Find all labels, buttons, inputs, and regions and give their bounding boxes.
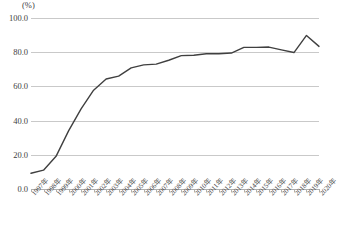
y-axis: 0.020.040.060.080.0100.0	[0, 0, 31, 233]
plot-area	[31, 18, 319, 189]
series-polyline	[31, 35, 319, 173]
series-line	[31, 18, 319, 189]
y-tick-label: 20.0	[13, 150, 28, 159]
y-tick-label: 80.0	[13, 48, 28, 57]
y-tick-label: 40.0	[13, 116, 28, 125]
x-axis: 1997年1998年1999年2000年2001年2002年2003年2004年…	[31, 192, 319, 233]
y-tick-label: 0.0	[17, 185, 28, 194]
y-tick-label: 60.0	[13, 82, 28, 91]
y-tick-label: 100.0	[9, 14, 28, 23]
